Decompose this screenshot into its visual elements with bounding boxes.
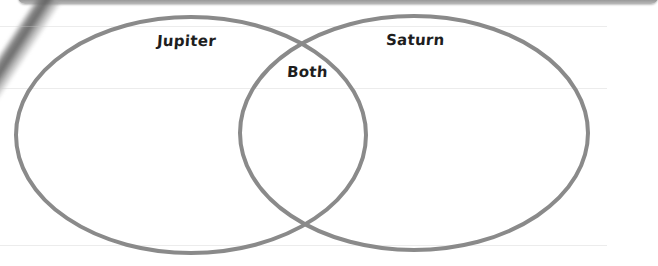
jupiter-label: Jupiter — [156, 32, 216, 50]
saturn-label: Saturn — [385, 31, 445, 49]
jupiter-ellipse — [16, 17, 366, 253]
saturn-ellipse — [240, 16, 588, 250]
both-label: Both — [286, 63, 328, 81]
